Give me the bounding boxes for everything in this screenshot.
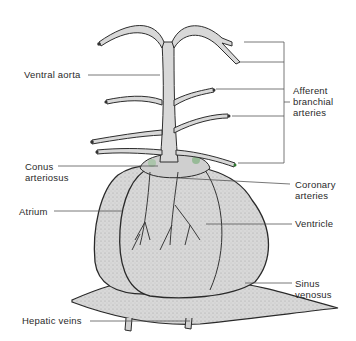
- label-ventral-aorta: Ventral aorta: [24, 69, 80, 80]
- label-afferent-line1: Afferent: [293, 85, 333, 96]
- label-sinus-line2: venosus: [295, 289, 332, 300]
- label-afferent-branchial-arteries: Afferent branchial arteries: [293, 85, 333, 118]
- label-coronary-line2: arteries: [295, 190, 336, 201]
- hepatic-vein-right: [185, 318, 192, 329]
- label-coronary-line1: Coronary: [295, 179, 336, 190]
- hepatic-vein-left: [125, 318, 132, 331]
- label-conus-line2: arteriosus: [25, 172, 69, 183]
- label-sinus-line1: Sinus: [295, 278, 332, 289]
- label-afferent-line3: arteries: [293, 107, 333, 118]
- label-afferent-line2: branchial: [293, 96, 333, 107]
- label-coronary-arteries: Coronary arteries: [295, 179, 336, 201]
- label-hepatic-veins: Hepatic veins: [22, 315, 82, 326]
- label-ventricle: Ventricle: [295, 218, 333, 229]
- label-conus-arteriosus: Conus arteriosus: [25, 161, 69, 183]
- label-atrium: Atrium: [19, 206, 48, 217]
- label-sinus-venosus: Sinus venosus: [295, 278, 332, 300]
- fish-heart-diagram: Ventral aorta Afferent branchial arterie…: [0, 0, 356, 341]
- label-conus-line1: Conus: [25, 161, 69, 172]
